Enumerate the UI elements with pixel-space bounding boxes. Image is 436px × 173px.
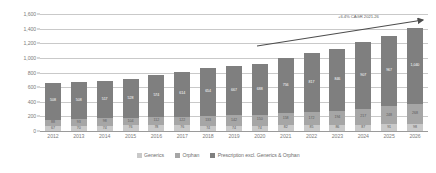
bar-segment-prescription[interactable]: 907 bbox=[355, 42, 371, 108]
bar-segment-generics[interactable]: 98 bbox=[407, 124, 423, 131]
bar-segment-prescription[interactable]: 508 bbox=[45, 83, 61, 120]
bar-segment-orphan[interactable]: 217 bbox=[355, 109, 371, 125]
x-axis-tick-label-2014: 2014 bbox=[92, 133, 118, 145]
bar-segment-orphan[interactable]: 104 bbox=[123, 118, 139, 126]
bar-value-label: 172 bbox=[309, 117, 315, 121]
bar-value-label: 574 bbox=[153, 94, 159, 98]
bar-segment-generics[interactable]: 74 bbox=[97, 126, 113, 131]
bar-segment-orphan[interactable]: 133 bbox=[200, 116, 216, 126]
x-axis-tick-label-2021: 2021 bbox=[273, 133, 299, 145]
bar-segment-generics[interactable]: 82 bbox=[278, 125, 294, 131]
bar-value-label: 86 bbox=[335, 126, 339, 130]
bar-column-2018[interactable]: 65413374 bbox=[195, 14, 221, 131]
stacked-bar[interactable]: 84619486 bbox=[329, 49, 345, 131]
bar-segment-prescription[interactable]: 654 bbox=[200, 68, 216, 116]
stacked-bar[interactable]: 96724891 bbox=[381, 36, 397, 131]
bar-segment-prescription[interactable]: 528 bbox=[123, 79, 139, 118]
legend-item[interactable]: Generics bbox=[137, 152, 164, 158]
legend-item[interactable]: Orphan bbox=[175, 152, 199, 158]
bar-segment-generics[interactable]: 76 bbox=[174, 125, 190, 131]
bar-segment-generics[interactable]: 76 bbox=[123, 125, 139, 131]
bar-segment-generics[interactable]: 70 bbox=[71, 126, 87, 131]
bar-segment-orphan[interactable]: 248 bbox=[381, 106, 397, 124]
bar-value-label: 667 bbox=[231, 89, 237, 93]
bar-value-label: 98 bbox=[413, 126, 417, 130]
stacked-bar[interactable]: 75615882 bbox=[278, 58, 294, 131]
bar-value-label: 85 bbox=[310, 126, 314, 130]
bar-value-label: 93 bbox=[77, 121, 81, 125]
stacked-bar[interactable]: 5089370 bbox=[71, 82, 87, 131]
stacked-bar[interactable]: 81717285 bbox=[304, 53, 320, 132]
stacked-bar[interactable]: 65413374 bbox=[200, 68, 216, 131]
bar-value-label: 150 bbox=[257, 118, 263, 122]
x-axis-tick-label-2022: 2022 bbox=[299, 133, 325, 145]
bar-segment-orphan[interactable]: 150 bbox=[252, 115, 268, 126]
x-axis-tick-label-2020: 2020 bbox=[247, 133, 273, 145]
x-axis-tick-label-2018: 2018 bbox=[195, 133, 221, 145]
bar-segment-prescription[interactable]: 846 bbox=[329, 49, 345, 111]
bar-segment-generics[interactable]: 86 bbox=[329, 125, 345, 131]
stacked-bar[interactable]: 90721787 bbox=[355, 42, 371, 131]
bar-segment-generics[interactable]: 74 bbox=[200, 126, 216, 131]
stacked-bar[interactable]: 52810476 bbox=[123, 79, 139, 131]
stacked-bar[interactable]: 5088867 bbox=[45, 83, 61, 131]
bar-column-2016[interactable]: 57411278 bbox=[143, 14, 169, 131]
y-axis-tick-label: 1,200 bbox=[24, 40, 36, 46]
bar-segment-orphan[interactable]: 142 bbox=[226, 115, 242, 125]
bar-segment-generics[interactable]: 91 bbox=[381, 124, 397, 131]
bar-segment-orphan[interactable]: 98 bbox=[97, 118, 113, 125]
bar-column-2013[interactable]: 5089370 bbox=[66, 14, 92, 131]
bar-value-label: 74 bbox=[206, 127, 210, 131]
bar-segment-generics[interactable]: 67 bbox=[45, 126, 61, 131]
bar-segment-orphan[interactable]: 172 bbox=[304, 112, 320, 125]
x-axis-tick-label-2024: 2024 bbox=[350, 133, 376, 145]
y-axis-tick-label: 0 bbox=[33, 128, 36, 134]
bar-segment-generics[interactable]: 78 bbox=[148, 125, 164, 131]
bar-segment-orphan[interactable]: 122 bbox=[174, 117, 190, 126]
bar-segment-orphan[interactable]: 158 bbox=[278, 113, 294, 125]
stacked-bar[interactable]: 5179874 bbox=[97, 81, 113, 131]
bar-segment-prescription[interactable]: 688 bbox=[252, 64, 268, 114]
bar-segment-orphan[interactable]: 194 bbox=[329, 111, 345, 125]
bar-segment-orphan[interactable]: 268 bbox=[407, 104, 423, 124]
stacked-bar[interactable]: 61412276 bbox=[174, 72, 190, 131]
bar-value-label: 688 bbox=[257, 88, 263, 92]
bar-value-label: 98 bbox=[103, 120, 107, 124]
bar-value-label: 756 bbox=[283, 84, 289, 88]
bar-segment-generics[interactable]: 74 bbox=[226, 126, 242, 131]
bar-segment-orphan[interactable]: 112 bbox=[148, 117, 164, 125]
bar-value-label: 76 bbox=[180, 126, 184, 130]
bar-segment-prescription[interactable]: 667 bbox=[226, 66, 242, 115]
bar-segment-generics[interactable]: 87 bbox=[355, 125, 371, 131]
bar-segment-orphan[interactable]: 93 bbox=[71, 119, 87, 126]
y-axis-tick-label: 600 bbox=[28, 84, 36, 90]
bar-column-2015[interactable]: 52810476 bbox=[118, 14, 144, 131]
legend-item[interactable]: Prescription excl. Generics & Orphan bbox=[210, 152, 299, 158]
legend-swatch-icon bbox=[175, 153, 180, 158]
bar-column-2017[interactable]: 61412276 bbox=[169, 14, 195, 131]
x-axis-tick-label-2019: 2019 bbox=[221, 133, 247, 145]
bar-value-label: 74 bbox=[103, 127, 107, 131]
bar-segment-prescription[interactable]: 614 bbox=[174, 72, 190, 117]
bar-segment-generics[interactable]: 74 bbox=[252, 126, 268, 131]
stacked-bar[interactable]: 68815074 bbox=[252, 64, 268, 131]
bar-value-label: 248 bbox=[386, 114, 392, 118]
bar-segment-prescription[interactable]: 756 bbox=[278, 58, 294, 113]
bar-column-2014[interactable]: 5179874 bbox=[92, 14, 118, 131]
stacked-bar[interactable]: 66714274 bbox=[226, 66, 242, 131]
stacked-bar[interactable]: 57411278 bbox=[148, 75, 164, 131]
bar-value-label: 194 bbox=[334, 116, 340, 120]
y-axis-tick-label: 800 bbox=[28, 70, 36, 76]
bar-column-2019[interactable]: 66714274 bbox=[221, 14, 247, 131]
bar-column-2012[interactable]: 5088867 bbox=[40, 14, 66, 131]
bar-segment-prescription[interactable]: 817 bbox=[304, 53, 320, 113]
bar-segment-prescription[interactable]: 517 bbox=[97, 81, 113, 119]
bar-value-label: 967 bbox=[386, 69, 392, 73]
cagr-annotation-label: +6.4% CAGR 2021-26 bbox=[338, 14, 379, 19]
bar-segment-prescription[interactable]: 574 bbox=[148, 75, 164, 117]
bar-value-label: 846 bbox=[334, 78, 340, 82]
bar-segment-prescription[interactable]: 508 bbox=[71, 82, 87, 119]
bar-segment-generics[interactable]: 85 bbox=[304, 125, 320, 131]
bar-value-label: 82 bbox=[284, 126, 288, 130]
bar-value-label: 1,040 bbox=[411, 64, 420, 68]
